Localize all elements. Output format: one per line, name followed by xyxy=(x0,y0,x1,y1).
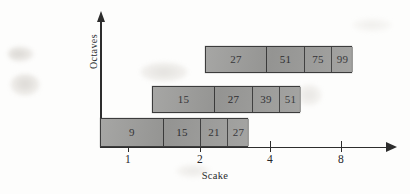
x-axis-title: Scake xyxy=(170,170,260,181)
x-axis-line xyxy=(100,147,388,149)
x-axis-tick xyxy=(270,141,271,152)
bar-segment-label: 75 xyxy=(305,47,332,72)
bar-segment-label: 51 xyxy=(267,47,305,72)
bar-segment-label: 27 xyxy=(215,87,253,112)
bar-segment-label: 15 xyxy=(153,87,215,112)
stacked-bar-row: 9152127 xyxy=(100,118,248,147)
bar-segment-label: 9 xyxy=(101,119,164,146)
bar-segment-label: 15 xyxy=(164,119,201,146)
x-axis-tick-label: 1 xyxy=(113,153,143,165)
scan-smudge xyxy=(352,18,392,32)
y-axis-title: Octaves xyxy=(88,17,99,87)
scan-smudge xyxy=(10,74,40,96)
x-axis-tick-label: 4 xyxy=(255,153,285,165)
bar-segment-label: 27 xyxy=(206,47,267,72)
x-axis-tick-label: 8 xyxy=(326,153,356,165)
bar-segment-label: 39 xyxy=(253,87,280,112)
x-axis-tick-label: 2 xyxy=(185,153,215,165)
bar-segment-label: 51 xyxy=(280,87,301,112)
x-axis-tick xyxy=(341,141,342,152)
stacked-bar-row: 27517599 xyxy=(205,46,352,73)
x-axis-arrow-icon xyxy=(386,142,397,152)
bar-segment-label: 99 xyxy=(332,47,353,72)
stacked-bar-row: 15273951 xyxy=(152,86,300,113)
bar-segment-label: 27 xyxy=(228,119,249,146)
figure-canvas: Octaves Scake 1248 915212715273951275175… xyxy=(0,0,410,194)
scan-smudge xyxy=(8,46,34,62)
bar-segment-label: 21 xyxy=(201,119,228,146)
scan-smudge xyxy=(140,62,188,82)
